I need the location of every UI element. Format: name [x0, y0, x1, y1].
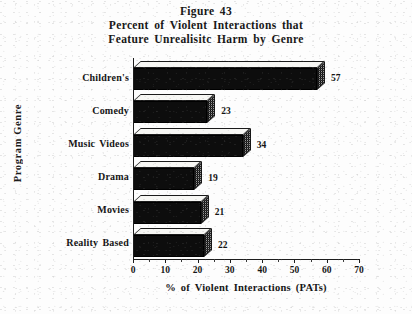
bar-top-face [133, 128, 251, 135]
bar-top-face [133, 94, 215, 101]
plot-area: 572334192122 010203040506070 [133, 58, 359, 259]
y-tick-label: Music Videos [68, 138, 129, 149]
bar-top-face [133, 195, 209, 202]
x-tick-major [262, 259, 263, 263]
y-axis-tick-labels: Children's Comedy Music Videos Drama Mov… [0, 58, 129, 259]
chart-subtitle-line-1: Percent of Violent Interactions that [0, 18, 412, 32]
x-tick-label: 60 [322, 265, 332, 275]
bar-front-face [133, 68, 317, 90]
chart-title-block: Figure 43 Percent of Violent Interaction… [0, 4, 412, 46]
x-tick-major [133, 259, 134, 263]
x-tick-label: 40 [257, 265, 267, 275]
bar-value-label: 23 [221, 106, 231, 116]
y-tick-label: Movies [97, 204, 129, 215]
x-tick-minor [181, 259, 182, 262]
x-tick-label: 30 [225, 265, 235, 275]
x-tick-label: 10 [161, 265, 171, 275]
y-tick-label: Drama [98, 171, 129, 182]
x-tick-minor [149, 259, 150, 262]
y-tick-label: Comedy [92, 105, 129, 116]
bar-value-label: 22 [218, 240, 228, 250]
x-tick-major [198, 259, 199, 263]
chart-subtitle-line-2: Feature Unrealisitc Harm by Genre [0, 32, 412, 46]
x-tick-major [294, 259, 295, 263]
bar-top-face [133, 61, 325, 68]
x-axis-title: % of Violent Interactions (PATs) [133, 282, 359, 293]
bar-top-face [133, 228, 212, 235]
bar-front-face [133, 202, 201, 224]
x-tick-minor [246, 259, 247, 262]
bar-front-face [133, 101, 207, 123]
bar-value-label: 34 [257, 140, 267, 150]
bar-front-face [133, 168, 194, 190]
bar-top-face [133, 161, 202, 168]
x-tick-major [165, 259, 166, 263]
figure-number: Figure 43 [0, 4, 412, 18]
x-tick-minor [214, 259, 215, 262]
x-tick-label: 50 [290, 265, 300, 275]
x-tick-minor [278, 259, 279, 262]
y-tick-label: Children's [82, 72, 129, 83]
x-tick-label: 0 [131, 265, 136, 275]
x-tick-minor [311, 259, 312, 262]
y-tick-label: Reality Based [66, 237, 129, 248]
bar-value-label: 57 [331, 73, 341, 83]
bar-value-label: 19 [208, 173, 218, 183]
x-tick-major [230, 259, 231, 263]
x-tick-label: 20 [193, 265, 203, 275]
x-tick-minor [343, 259, 344, 262]
x-tick-major [359, 259, 360, 263]
figure-container: Figure 43 Percent of Violent Interaction… [0, 0, 412, 314]
y-axis-line [133, 58, 134, 259]
x-tick-label: 70 [354, 265, 364, 275]
bar-front-face [133, 235, 204, 257]
x-tick-major [327, 259, 328, 263]
bar-front-face [133, 135, 243, 157]
bar-value-label: 21 [215, 207, 225, 217]
